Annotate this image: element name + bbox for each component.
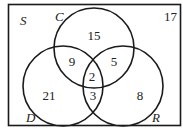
region-r-only: 8 [137,88,144,103]
universal-set-label: S [20,13,27,28]
set-r-circle [83,46,163,126]
region-d-r-only: 3 [90,88,97,103]
set-c-label: C [55,9,64,24]
region-c-d-only: 9 [69,54,76,69]
set-d-label: D [25,110,36,125]
universal-set-frame [9,5,181,126]
region-c-r-only: 5 [111,54,118,69]
venn-diagram: S 17 C D R 15 9 5 2 3 21 8 [0,0,183,129]
outside-count: 17 [164,9,178,24]
region-d-only: 21 [43,88,56,103]
set-r-label: R [151,110,160,125]
region-c-d-r: 2 [89,69,96,84]
region-c-only: 15 [88,28,101,43]
